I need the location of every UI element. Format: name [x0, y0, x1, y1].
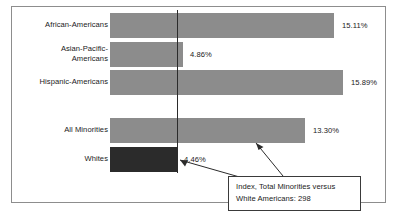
callout-line-2: White Americans: 298	[236, 193, 360, 205]
chart-frame	[11, 6, 386, 203]
callout-line-1: Index, Total Minorities versus	[236, 181, 360, 193]
callout-box: Index, Total Minorities versus White Ame…	[228, 176, 361, 211]
chart-root: African-Americans 15.11% Asian-Pacific- …	[0, 0, 399, 224]
